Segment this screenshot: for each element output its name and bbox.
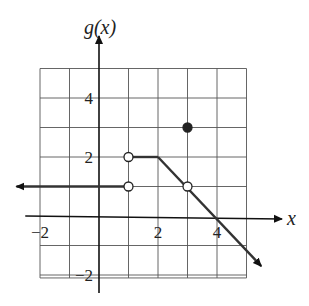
- open-point: [124, 182, 133, 191]
- closed-point: [183, 123, 192, 132]
- y-tick-label: 2: [85, 148, 94, 167]
- y-tick-label: 4: [85, 89, 94, 108]
- x-axis-label: x: [286, 207, 296, 229]
- x-tick-label: −2: [31, 223, 49, 242]
- grid: [40, 69, 247, 278]
- function-graph: −22442−2xg(x): [0, 0, 309, 306]
- axis-labels: −22442−2xg(x): [31, 16, 296, 285]
- x-tick-label: 2: [154, 223, 163, 242]
- open-point: [124, 153, 133, 162]
- y-tick-label: −2: [75, 266, 93, 285]
- graph-segment: [158, 157, 261, 266]
- x-tick-label: 4: [213, 223, 222, 242]
- x-axis: [25, 216, 282, 219]
- open-point: [183, 182, 192, 191]
- axes: [25, 36, 282, 293]
- y-axis-label: g(x): [84, 16, 117, 39]
- graph-curves: [16, 157, 261, 266]
